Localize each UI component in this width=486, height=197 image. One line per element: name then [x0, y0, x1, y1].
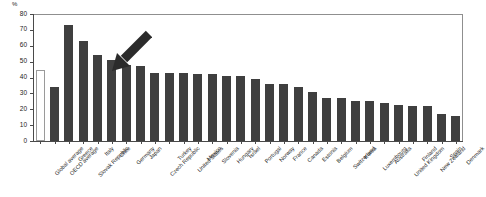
- bar: [79, 41, 88, 141]
- x-axis-tick-label: Chile: [119, 146, 132, 159]
- x-axis-tick-mark: [241, 142, 242, 144]
- x-axis-tick-mark: [356, 142, 357, 144]
- x-axis-tick-label: Italy: [104, 146, 115, 157]
- x-axis-tick-mark: [98, 142, 99, 144]
- bar: [150, 73, 159, 141]
- x-axis-tick-mark: [427, 142, 428, 144]
- x-axis-tick-mark: [212, 142, 213, 144]
- x-axis-labels: Global averageOECD averageGreeceSlovak R…: [33, 142, 463, 197]
- bar: [93, 55, 102, 141]
- x-axis-tick-mark: [313, 142, 314, 144]
- x-axis-tick-mark: [126, 142, 127, 144]
- x-axis-tick-mark: [255, 142, 256, 144]
- bar: [107, 60, 116, 141]
- bar: [365, 101, 374, 141]
- bar: [308, 92, 317, 141]
- bar: [294, 87, 303, 141]
- bar: [394, 105, 403, 142]
- bar: [451, 116, 460, 141]
- bar: [179, 73, 188, 141]
- x-axis-tick-mark: [284, 142, 285, 144]
- x-axis-tick-label: Australia: [394, 146, 413, 165]
- y-axis-tick-label: 30: [11, 90, 27, 97]
- y-axis-tick-label: 20: [11, 106, 27, 113]
- bars-layer: [33, 14, 463, 141]
- bar: [193, 74, 202, 141]
- bar: [122, 65, 131, 141]
- bar: [236, 76, 245, 141]
- x-axis-tick-mark: [40, 142, 41, 144]
- y-axis-unit-label: %: [12, 1, 17, 7]
- y-axis-tick-label: 70: [11, 26, 27, 33]
- x-axis-tick-mark: [370, 142, 371, 144]
- x-axis-tick-mark: [198, 142, 199, 144]
- x-axis-tick-mark: [112, 142, 113, 144]
- x-axis-tick-mark: [184, 142, 185, 144]
- bar: [423, 106, 432, 141]
- x-axis-tick-mark: [327, 142, 328, 144]
- x-axis-tick-mark: [141, 142, 142, 144]
- bar: [265, 84, 274, 141]
- x-axis-tick-mark: [341, 142, 342, 144]
- bar: [322, 98, 331, 141]
- bar: [279, 84, 288, 141]
- x-axis-tick-mark: [83, 142, 84, 144]
- x-axis-tick-mark: [399, 142, 400, 144]
- x-axis-tick-mark: [456, 142, 457, 144]
- x-axis-tick-mark: [384, 142, 385, 144]
- y-axis-tick-label: 0: [11, 138, 27, 145]
- bar: [380, 103, 389, 141]
- y-axis-tick-label: 50: [11, 58, 27, 65]
- x-axis-tick-label: Korea: [363, 146, 378, 161]
- bar: [36, 70, 45, 141]
- x-axis-tick-mark: [270, 142, 271, 144]
- x-axis-tick-label: Canada: [307, 146, 325, 164]
- bar: [437, 114, 446, 141]
- bar: [222, 76, 231, 141]
- bar: [50, 87, 59, 141]
- x-axis-tick-mark: [227, 142, 228, 144]
- y-axis-tick-label: 80: [11, 11, 27, 18]
- y-axis-tick-label: 60: [11, 42, 27, 49]
- x-axis-tick-mark: [413, 142, 414, 144]
- x-axis-tick-mark: [155, 142, 156, 144]
- x-axis-tick-mark: [298, 142, 299, 144]
- bar: [251, 79, 260, 141]
- y-axis-tick-label: 10: [11, 122, 27, 129]
- x-axis-tick-mark: [442, 142, 443, 144]
- bar: [408, 106, 417, 141]
- x-axis-tick-mark: [169, 142, 170, 144]
- y-axis-tick-label: 40: [11, 74, 27, 81]
- bar: [351, 101, 360, 141]
- x-axis-tick-mark: [69, 142, 70, 144]
- bar: [337, 98, 346, 141]
- x-axis-tick-label: Denmark: [465, 146, 485, 166]
- x-axis-tick-mark: [55, 142, 56, 144]
- bar: [208, 74, 217, 141]
- bar: [165, 73, 174, 141]
- bar: [136, 66, 145, 141]
- bar: [64, 25, 73, 141]
